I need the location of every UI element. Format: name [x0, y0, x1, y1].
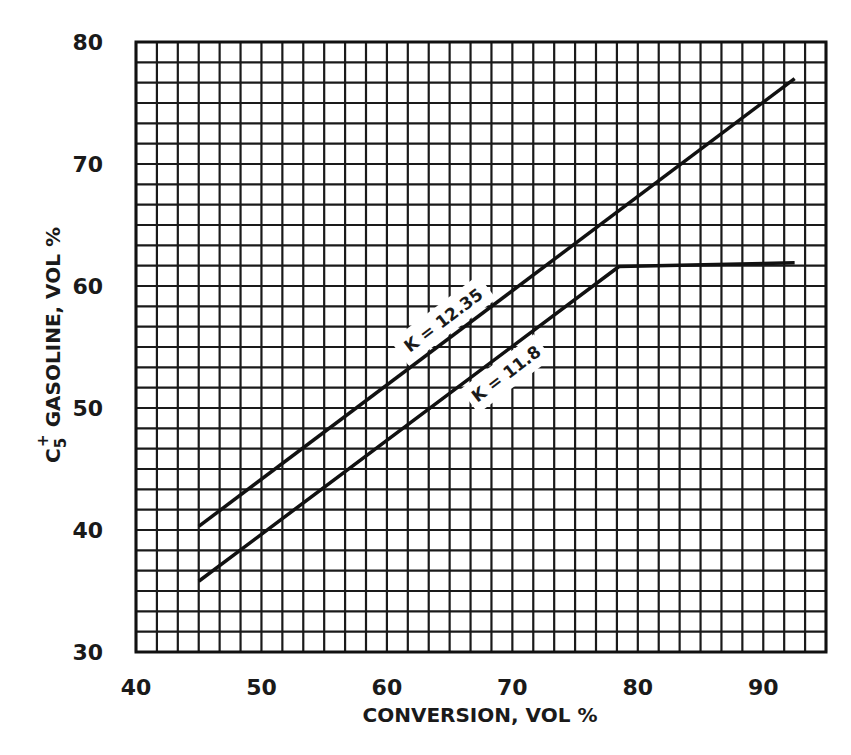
- chart-canvas: K = 12.35K = 11.8 405060708090 304050607…: [0, 0, 851, 755]
- y-axis-title-sup: +: [34, 434, 52, 447]
- x-tick-label: 60: [372, 675, 403, 700]
- y-axis-title-sub: 5: [52, 438, 70, 448]
- y-tick-label: 50: [72, 396, 103, 421]
- series-line-1: [199, 263, 795, 581]
- svg-text:C5+ GASOLINE, VOL %: C5+ GASOLINE, VOL %: [34, 227, 70, 463]
- x-tick-label: 90: [748, 675, 779, 700]
- y-tick-label: 60: [72, 274, 103, 299]
- y-axis-ticks: 304050607080: [72, 30, 103, 665]
- series-line-0: [199, 79, 795, 527]
- x-tick-label: 40: [121, 675, 152, 700]
- x-tick-label: 70: [497, 675, 528, 700]
- y-tick-label: 30: [72, 640, 103, 665]
- curve-label-0: K = 12.35: [390, 275, 496, 365]
- x-axis-ticks: 405060708090: [121, 675, 779, 700]
- y-axis-title-rest: GASOLINE, VOL %: [41, 227, 65, 434]
- x-tick-label: 50: [246, 675, 277, 700]
- x-tick-label: 80: [623, 675, 654, 700]
- series-group: [199, 79, 795, 582]
- x-axis-title: CONVERSION, VOL %: [363, 703, 598, 727]
- y-tick-label: 40: [72, 518, 103, 543]
- y-tick-label: 80: [72, 30, 103, 55]
- y-tick-label: 70: [72, 152, 103, 177]
- y-axis-title: C5+ GASOLINE, VOL %: [34, 227, 70, 463]
- y-axis-title-c: C: [41, 448, 65, 463]
